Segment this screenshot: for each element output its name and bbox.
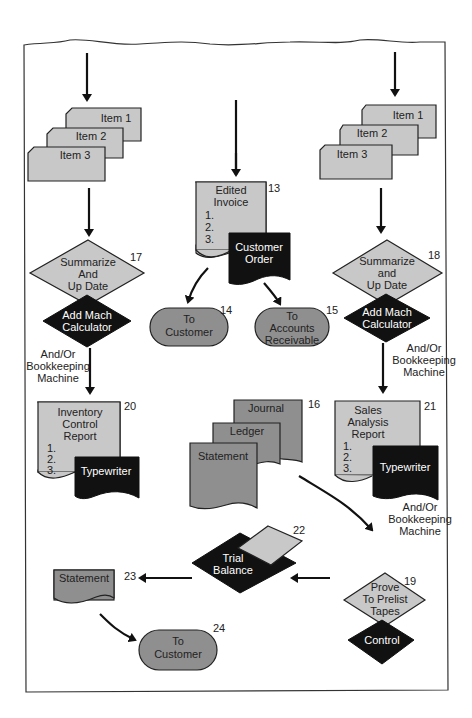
step-number: 16 (308, 398, 320, 410)
document-label: Ledger (230, 425, 265, 437)
report-label: Sales (354, 404, 382, 416)
arrow-to-receivable (264, 283, 280, 304)
card-label: Item 1 (101, 112, 132, 124)
decision-label: and (378, 267, 396, 279)
device-label: Add Mach (62, 309, 112, 321)
terminal-label: Customer (154, 648, 202, 660)
report-label: Inventory (57, 406, 103, 418)
note-label: Bookkeeping (26, 360, 90, 372)
device-label: Calculator (362, 318, 412, 330)
step-number: 14 (220, 304, 232, 316)
arrow-to-prove (299, 476, 372, 530)
report-wave (335, 475, 372, 482)
typewriter-left (75, 457, 139, 499)
document-stack: Journal Ledger Statement (190, 400, 302, 509)
note-label: And/Or (407, 342, 442, 354)
note-label: Bookkeeping (392, 354, 456, 366)
report-label: Analysis (348, 416, 389, 428)
typewriter-right (373, 446, 438, 500)
terminal-label: To (183, 313, 195, 325)
note-label: Machine (399, 525, 441, 537)
step-number: 15 (326, 304, 338, 316)
card-stack-right: Item 1 Item 2 Item 3 (320, 105, 436, 179)
control-label: Control (364, 634, 399, 646)
step-number: 13 (268, 182, 280, 194)
decision-label: Up Date (367, 279, 407, 291)
step-number: 21 (424, 400, 436, 412)
report-label: Report (63, 430, 96, 442)
order-label: Order (245, 253, 273, 265)
step-number: 22 (293, 524, 305, 536)
document-label: Statement (198, 450, 248, 462)
step-number: 17 (130, 251, 142, 263)
prove-label: Tapes (370, 605, 400, 617)
invoice-label: Invoice (214, 196, 249, 208)
flowchart-canvas: Item 1 Item 2 Item 3 Summarize And Up Da… (0, 0, 472, 718)
card-label: Item 1 (393, 109, 424, 121)
note-label: Bookkeeping (388, 513, 452, 525)
card-label: Item 2 (357, 127, 388, 139)
terminal-label: To (172, 635, 184, 647)
device-label: Calculator (62, 321, 112, 333)
step-number: 18 (428, 249, 440, 261)
note-label: Machine (37, 372, 79, 384)
statement-label: Statement (59, 572, 109, 584)
invoice-label: Edited (215, 184, 246, 196)
prove-label: To Prelist (362, 593, 407, 605)
note-label: Machine (403, 366, 445, 378)
order-label: Customer (235, 241, 283, 253)
report-wave (38, 472, 75, 478)
card-label: Item 2 (76, 130, 107, 142)
card-label: Item 3 (337, 148, 368, 160)
arrow-statement-to-customer (100, 614, 135, 640)
trial-balance-label: Balance (213, 564, 253, 576)
decision-label: And (78, 268, 98, 280)
step-number: 19 (404, 575, 416, 587)
report-item: 3. (343, 462, 352, 474)
step-number: 20 (124, 400, 136, 412)
arrow-to-customer (188, 268, 208, 302)
decision-label: Up Date (68, 280, 108, 292)
report-label: Control (62, 418, 97, 430)
step-number: 24 (213, 622, 225, 634)
invoice-item: 2. (205, 221, 214, 233)
terminal-label: Accounts (269, 322, 315, 334)
terminal-label: To (286, 310, 298, 322)
card-stack-left: Item 1 Item 2 Item 3 (28, 108, 141, 181)
invoice-item: 1. (205, 209, 214, 221)
terminal-label: Customer (165, 326, 213, 338)
card-label: Item 3 (60, 149, 91, 161)
note-label: And/Or (41, 348, 76, 360)
report-item: 3. (47, 464, 56, 476)
terminal-label: Receivable (265, 334, 319, 346)
decision-label: Summarize (60, 256, 116, 268)
step-number: 23 (124, 570, 136, 582)
note-label: And/Or (403, 501, 438, 513)
document-label: Journal (248, 402, 284, 414)
prove-label: Prove (371, 581, 400, 593)
trial-balance-label: Trial (223, 552, 244, 564)
decision-label: Summarize (359, 255, 415, 267)
typewriter-label: Typewriter (380, 461, 431, 473)
report-label: Report (351, 428, 384, 440)
device-label: Add Mach (362, 306, 412, 318)
typewriter-label: Typewriter (81, 465, 132, 477)
invoice-item: 3. (205, 233, 214, 245)
